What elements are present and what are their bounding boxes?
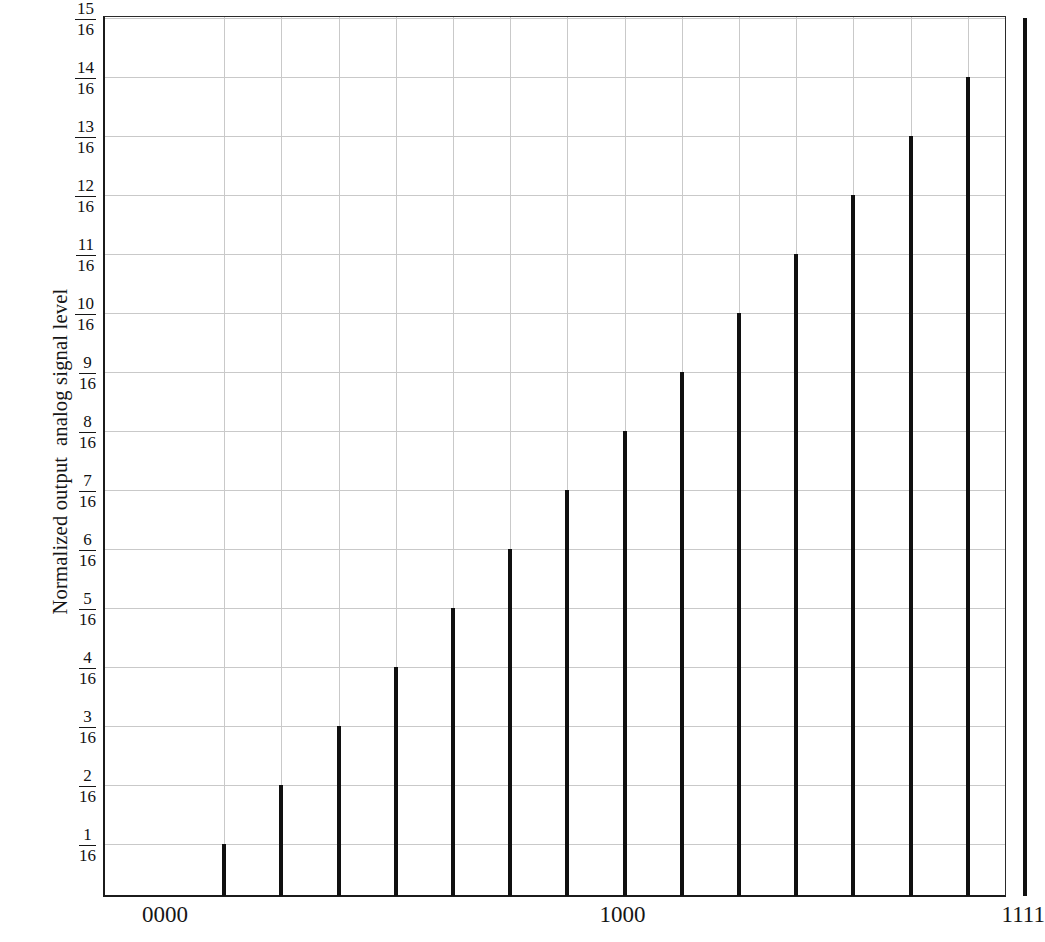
- y-tick-denominator: 16: [76, 256, 96, 275]
- y-tick-label: 1016: [18, 295, 96, 334]
- bar: [623, 431, 627, 896]
- horizontal-gridline: [105, 372, 1005, 373]
- y-tick-denominator: 16: [75, 79, 96, 98]
- plot-area: [103, 16, 1006, 897]
- y-tick-label: 216: [18, 767, 96, 806]
- horizontal-gridline: [105, 77, 1005, 78]
- horizontal-gridline: [105, 726, 1005, 727]
- bar: [909, 136, 913, 896]
- horizontal-gridline: [105, 608, 1005, 609]
- y-tick-numerator: 6: [79, 531, 96, 551]
- bar: [394, 667, 398, 896]
- y-tick-denominator: 16: [75, 197, 96, 216]
- y-tick-numerator: 8: [79, 413, 96, 433]
- bar: [737, 313, 741, 896]
- y-tick-label: 416: [18, 649, 96, 688]
- horizontal-gridline: [105, 490, 1005, 491]
- y-tick-denominator: 16: [75, 138, 96, 157]
- bar: [680, 372, 684, 896]
- bar: [279, 785, 283, 896]
- horizontal-gridline: [105, 785, 1005, 786]
- gridlines: [105, 17, 1005, 895]
- horizontal-gridline: [105, 195, 1005, 196]
- y-tick-numerator: 2: [79, 767, 96, 787]
- y-tick-numerator: 5: [79, 590, 96, 610]
- y-tick-label: 1216: [18, 177, 96, 216]
- bar: [966, 77, 970, 896]
- y-tick-label: 316: [18, 708, 96, 747]
- y-tick-numerator: 15: [75, 0, 96, 20]
- y-tick-denominator: 16: [79, 669, 96, 688]
- x-tick-label: 1111: [1002, 902, 1045, 928]
- y-tick-denominator: 16: [79, 787, 96, 806]
- y-tick-label: 1416: [18, 59, 96, 98]
- bar: [222, 844, 226, 896]
- bar: [451, 608, 455, 896]
- y-tick-label: 616: [18, 531, 96, 570]
- horizontal-gridline: [105, 136, 1005, 137]
- horizontal-gridline: [105, 549, 1005, 550]
- y-tick-denominator: 16: [79, 728, 96, 747]
- y-tick-denominator: 16: [75, 20, 96, 39]
- y-tick-numerator: 13: [75, 118, 96, 138]
- y-tick-numerator: 12: [75, 177, 96, 197]
- x-tick-label: 0000: [142, 902, 188, 928]
- y-tick-denominator: 16: [75, 315, 96, 334]
- horizontal-gridline: [105, 844, 1005, 845]
- bar: [337, 726, 341, 896]
- horizontal-gridline: [105, 18, 1005, 19]
- bar: [794, 254, 798, 896]
- y-tick-numerator: 4: [79, 649, 96, 669]
- y-tick-label: 716: [18, 472, 96, 511]
- horizontal-gridline: [105, 254, 1005, 255]
- y-tick-label: 816: [18, 413, 96, 452]
- horizontal-gridline: [105, 667, 1005, 668]
- y-tick-label: 1116: [18, 236, 96, 275]
- y-tick-label: 916: [18, 354, 96, 393]
- bar: [508, 549, 512, 896]
- y-tick-numerator: 10: [75, 295, 96, 315]
- y-tick-label: 1516: [18, 0, 96, 39]
- y-tick-denominator: 16: [79, 433, 96, 452]
- y-tick-numerator: 7: [79, 472, 96, 492]
- y-tick-numerator: 3: [79, 708, 96, 728]
- y-tick-label: 1316: [18, 118, 96, 157]
- bar: [851, 195, 855, 896]
- vertical-gridline: [281, 17, 282, 895]
- y-tick-denominator: 16: [79, 374, 96, 393]
- bar: [1023, 18, 1027, 896]
- vertical-gridline: [224, 17, 225, 895]
- y-tick-numerator: 1: [79, 826, 96, 846]
- y-tick-label: 116: [18, 826, 96, 865]
- y-tick-denominator: 16: [79, 551, 96, 570]
- y-tick-numerator: 11: [76, 236, 96, 256]
- x-tick-label: 1000: [600, 902, 646, 928]
- y-tick-denominator: 16: [79, 610, 96, 629]
- bar: [565, 490, 569, 896]
- y-tick-label: 516: [18, 590, 96, 629]
- y-tick-numerator: 9: [79, 354, 96, 374]
- horizontal-gridline: [105, 431, 1005, 432]
- y-tick-numerator: 14: [75, 59, 96, 79]
- y-tick-denominator: 16: [79, 846, 96, 865]
- horizontal-gridline: [105, 313, 1005, 314]
- y-tick-denominator: 16: [79, 492, 96, 511]
